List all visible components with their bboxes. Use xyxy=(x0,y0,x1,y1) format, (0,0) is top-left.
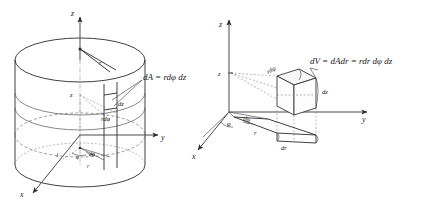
area-equation-label: dA = rdφ dz xyxy=(143,72,187,82)
left-z-axis-label: z xyxy=(70,9,75,18)
left-dz-label: dz xyxy=(118,100,124,107)
right-radius-label: r xyxy=(254,129,257,136)
right-phi-label: φ xyxy=(227,120,231,127)
right-dphi-label: dφ xyxy=(243,114,252,123)
right-dr-label: dr xyxy=(281,144,287,151)
right-z-axis-label: z xyxy=(218,20,223,29)
diagram-canvas: z y x r xyxy=(0,0,421,209)
left-dphi-label: dφ xyxy=(89,151,95,157)
volume-element-box xyxy=(277,69,318,115)
right-dz-label: dz xyxy=(322,88,328,95)
left-base-radius-label: r xyxy=(87,163,90,169)
area-element xyxy=(104,82,117,170)
right-height-label: z xyxy=(217,70,221,77)
left-phi-label: φ xyxy=(76,154,79,160)
left-x-axis xyxy=(33,135,80,193)
left-panel: z y x r xyxy=(15,9,187,199)
top-radius-lines xyxy=(79,48,117,73)
left-radius-label: r xyxy=(99,59,102,66)
left-dashed-leaders xyxy=(80,95,116,148)
right-arc-length-label: rdφ xyxy=(265,64,277,75)
base-angle-construction xyxy=(63,147,110,160)
left-height-label: z xyxy=(69,91,73,98)
right-x-axis-label: x xyxy=(191,152,196,161)
right-panel: z y x z xyxy=(191,20,393,161)
cylindrical-coordinates-figure: z y x r xyxy=(0,0,421,209)
right-x-axis xyxy=(198,112,229,150)
left-unit-label: 1 xyxy=(56,152,59,158)
volume-equation-label: dV = dAdr = rdr dφ dz xyxy=(310,56,393,66)
right-y-axis-label: y xyxy=(361,115,366,124)
left-arc-length-label: rdφ xyxy=(101,115,111,122)
left-y-axis-label: y xyxy=(160,133,165,142)
right-angle-construction xyxy=(203,112,268,137)
left-x-axis-label: x xyxy=(19,190,24,199)
